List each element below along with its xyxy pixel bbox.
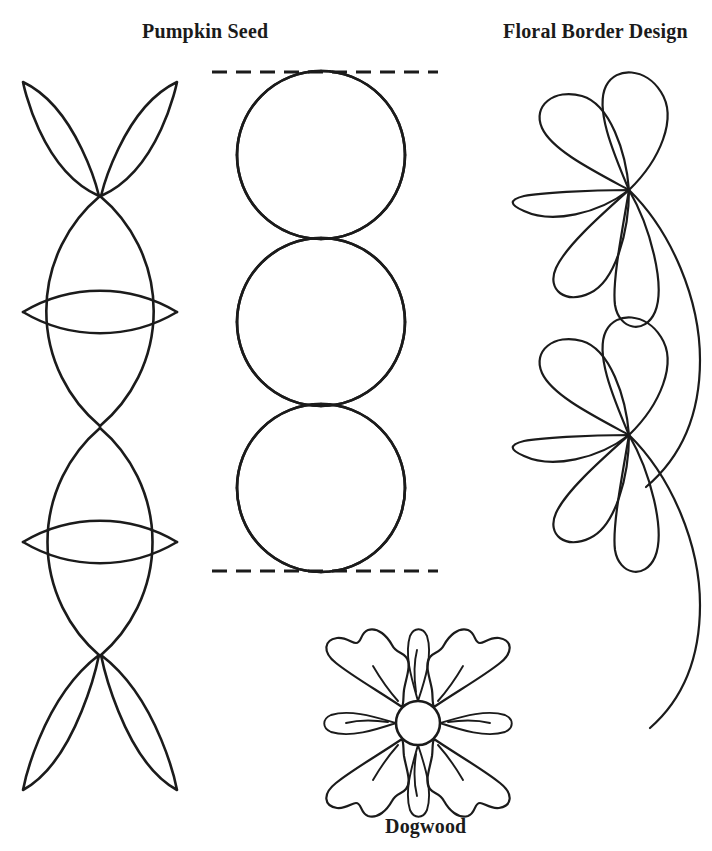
star-arc-3-ne <box>321 404 405 488</box>
flower-1-petal-top <box>603 72 668 190</box>
dogwood-sepal-bottom <box>408 745 429 817</box>
dogwood-sepal-top <box>408 629 429 701</box>
flower-1 <box>513 72 668 326</box>
leaf-bottom-left <box>23 655 99 790</box>
dogwood-sepal-left <box>324 713 396 734</box>
star-arc-1-se <box>321 155 405 239</box>
flower-1-petal-upper-left <box>540 94 629 190</box>
flower-1-petal-bottom <box>614 190 658 327</box>
pattern-artwork <box>0 0 712 851</box>
vesica-lower-right-arc <box>100 428 153 656</box>
dogwood-vein-sepal-left <box>346 721 388 723</box>
stem-curve-lower <box>629 435 700 728</box>
lens-lower-bottom-arc <box>23 542 177 563</box>
circle-unit-3 <box>237 404 405 572</box>
dogwood-sepal-right <box>440 713 512 734</box>
star-arc-3-nw <box>237 404 321 488</box>
star-arc-2-sw <box>237 322 321 406</box>
star-arc-2-se <box>321 322 405 406</box>
star-arc-1-ne <box>321 71 405 155</box>
dogwood-petal-upper-right <box>427 629 509 707</box>
star-arc-2-nw <box>237 238 321 322</box>
flower-2-petal-left <box>513 435 629 462</box>
dogwood-center-circle <box>396 701 440 745</box>
circle-unit-2 <box>237 238 405 406</box>
vesica-upper-right-arc <box>100 196 154 426</box>
flower-1-petal-left <box>513 190 629 217</box>
lens-lower-top-arc <box>23 521 177 542</box>
design-pumpkin-seed-circles <box>212 71 438 572</box>
vesica-lower-left-arc <box>47 428 100 656</box>
dogwood-vein-sepal-top <box>415 650 417 692</box>
dogwood-petal-upper-left <box>326 629 408 707</box>
star-arc-1-sw <box>237 155 321 239</box>
dogwood-vein-sepal-right <box>448 721 490 723</box>
star-arc-3-se <box>321 488 405 572</box>
design-pumpkin-seed-chain <box>23 82 177 790</box>
circle-unit-1 <box>237 71 405 239</box>
stem-curve-upper <box>629 190 700 487</box>
leaf-top-left <box>23 82 99 196</box>
flower-2-petal-upper-left <box>540 339 629 435</box>
leaf-bottom-right <box>101 655 177 790</box>
leaf-top-right <box>101 82 177 196</box>
star-arc-1-nw <box>237 71 321 155</box>
flower-1-petal-lower-left <box>553 190 629 297</box>
dogwood-vein-sepal-bottom <box>415 754 417 796</box>
star-arc-3-sw <box>237 488 321 572</box>
design-dogwood-blossom <box>324 629 512 817</box>
dogwood-petal-lower-left <box>326 739 408 817</box>
flower-2-petal-bottom <box>614 435 658 572</box>
pattern-sheet: Pumpkin Seed Floral Border Design Dogwoo… <box>0 0 712 851</box>
flower-2 <box>513 317 668 571</box>
dogwood-petal-lower-right <box>427 739 509 817</box>
star-arc-2-ne <box>321 238 405 322</box>
design-floral-border <box>513 72 700 728</box>
flower-2-petal-lower-left <box>553 435 629 542</box>
flower-2-petal-top <box>603 317 668 435</box>
vesica-upper-left-arc <box>46 196 100 426</box>
